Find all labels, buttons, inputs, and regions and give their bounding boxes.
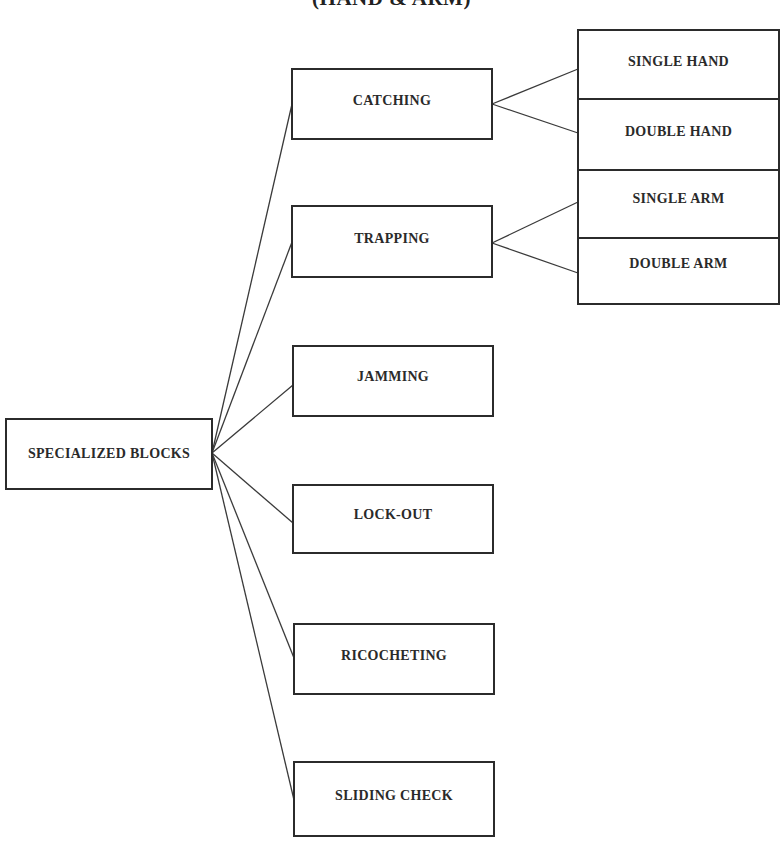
node-double-arm: DOUBLE ARM	[579, 237, 778, 303]
connector-root-jamming	[212, 385, 293, 453]
node-label: TRAPPING	[354, 231, 430, 247]
node-label: SINGLE ARM	[632, 191, 724, 207]
node-double-hand: DOUBLE HAND	[579, 98, 778, 169]
node-label: LOCK-OUT	[354, 507, 433, 523]
node-jamming: JAMMING	[292, 345, 494, 417]
node-sliding-check: SLIDING CHECK	[293, 761, 495, 837]
node-specialized-blocks: SPECIALIZED BLOCKS	[5, 418, 213, 490]
connector-root-lockout	[212, 453, 293, 523]
node-single-arm: SINGLE ARM	[579, 169, 778, 237]
connector-trapping-double-arm	[492, 243, 578, 273]
node-ricocheting: RICOCHETING	[293, 623, 495, 695]
node-label: RICOCHETING	[341, 648, 447, 664]
connector-root-trapping	[212, 242, 292, 453]
node-trapping: TRAPPING	[291, 205, 493, 278]
node-label: JAMMING	[357, 369, 429, 385]
leaf-stack: SINGLE HAND DOUBLE HAND SINGLE ARM DOUBL…	[577, 29, 780, 305]
node-label: SPECIALIZED BLOCKS	[28, 446, 190, 462]
node-label: SINGLE HAND	[628, 54, 729, 70]
node-label: DOUBLE HAND	[625, 124, 732, 140]
connector-trapping-single-arm	[492, 202, 578, 243]
connector-catching-double-hand	[492, 104, 578, 133]
node-label: DOUBLE ARM	[629, 256, 727, 272]
node-single-hand: SINGLE HAND	[579, 31, 778, 98]
node-lock-out: LOCK-OUT	[292, 484, 494, 554]
connector-root-catching	[212, 104, 292, 453]
node-label: SLIDING CHECK	[335, 788, 453, 804]
node-catching: CATCHING	[291, 68, 493, 140]
connector-catching-single-hand	[492, 69, 578, 104]
node-label: CATCHING	[353, 93, 431, 109]
